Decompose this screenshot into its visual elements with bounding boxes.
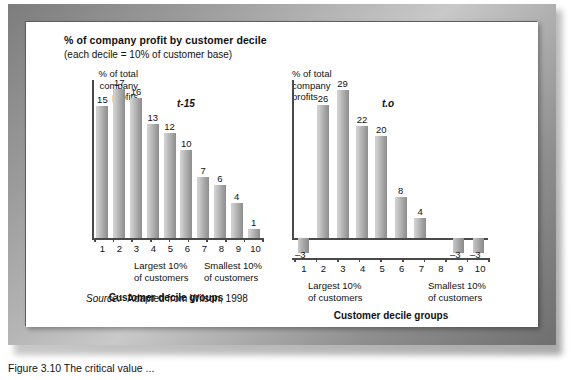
x-axis-tick (131, 238, 133, 242)
bar[interactable] (375, 136, 387, 238)
plot-area-left: 1517161312107641 (92, 80, 262, 238)
x-axis-tick-label: 3 (333, 263, 353, 274)
x-axis-tick (467, 258, 469, 262)
note-largest-right-line-1: Largest 10% (308, 280, 362, 292)
bar[interactable] (214, 185, 226, 238)
bar-value-label: 6 (217, 173, 222, 184)
bar-value-label: 10 (181, 138, 192, 149)
bar-group[interactable]: 22 (352, 80, 371, 238)
bar-group[interactable]: 8 (391, 80, 410, 238)
bar[interactable] (113, 89, 125, 238)
bar-value-label: 8 (398, 185, 403, 196)
x-axis-tick-label: 6 (392, 263, 412, 274)
x-axis-tick-label: 5 (372, 263, 392, 274)
bar[interactable] (147, 124, 159, 238)
x-axis-tick (262, 238, 264, 242)
bar-value-label: 29 (337, 78, 348, 89)
x-axis-tick-label: 7 (196, 243, 213, 254)
note-largest-right: Largest 10% of customers (308, 280, 362, 303)
bar-value-label: 16 (131, 86, 142, 97)
x-axis-tick (359, 258, 361, 262)
note-smallest-right-line-2: of customers (428, 292, 486, 304)
bar-group[interactable]: 16 (128, 80, 145, 238)
x-axis-tick (94, 238, 96, 242)
note-smallest-left-line-1: Smallest 10% (204, 260, 262, 272)
bar-series-right: 2629222084 (294, 80, 488, 238)
x-axis-tick-label: 10 (247, 243, 264, 254)
bar[interactable] (180, 150, 192, 238)
bar-group[interactable] (294, 80, 313, 238)
x-axis-tick-label: 10 (470, 263, 490, 274)
x-axis-tick-label: 7 (412, 263, 432, 274)
negative-bar-region-right: –3–3–3 (292, 238, 488, 258)
bar-group[interactable]: 1 (245, 80, 262, 238)
source-label: Source: (86, 293, 120, 304)
bar-group-negative[interactable]: –3 (453, 238, 464, 253)
x-axis-tick-label: 9 (230, 243, 247, 254)
bar-group-negative[interactable]: –3 (298, 238, 309, 253)
bar-group[interactable]: 6 (212, 80, 229, 238)
bar-group[interactable]: 4 (228, 80, 245, 238)
x-axis-tick (402, 258, 404, 262)
bar[interactable] (130, 98, 142, 238)
bar-group[interactable]: 12 (161, 80, 178, 238)
x-axis-title-right: Customer decile groups (292, 310, 490, 321)
note-largest-left-line-2: of customers (134, 272, 188, 284)
page-subtitle: (each decile = 10% of customer base) (64, 48, 364, 61)
note-smallest-right: Smallest 10% of customers (428, 280, 486, 303)
x-axis-tick (294, 258, 296, 262)
x-axis-tick (445, 258, 447, 262)
bar-value-label: 13 (147, 112, 158, 123)
bar-group[interactable] (430, 80, 449, 238)
bar-value-label: 7 (201, 165, 206, 176)
bar-group[interactable]: 7 (195, 80, 212, 238)
bar-group[interactable]: 10 (178, 80, 195, 238)
x-axis-ticks-right (294, 258, 490, 262)
bar-group[interactable]: 17 (111, 80, 128, 238)
bar[interactable] (164, 133, 176, 238)
bar-group[interactable]: 15 (94, 80, 111, 238)
bar[interactable] (317, 105, 329, 238)
x-axis-tick-label: 9 (451, 263, 471, 274)
bar-value-label: 15 (97, 94, 108, 105)
bar[interactable] (356, 126, 368, 238)
x-axis-tick-label: 2 (314, 263, 334, 274)
bar[interactable] (231, 203, 243, 238)
bar-group[interactable]: 20 (372, 80, 391, 238)
bar-group[interactable]: 26 (313, 80, 332, 238)
bar[interactable] (337, 90, 349, 238)
bar-value-label: 12 (164, 121, 175, 132)
source-note: Source: Adapted from Wilson, 1998 (86, 293, 248, 304)
x-axis-tick (169, 238, 171, 242)
x-axis-tick (113, 238, 115, 242)
x-axis-tick-labels-right: 12345678910 (294, 263, 490, 274)
bar-group[interactable]: 13 (144, 80, 161, 238)
bar-group[interactable]: 29 (333, 80, 352, 238)
bar[interactable] (248, 229, 260, 238)
x-axis-tick (488, 258, 490, 262)
x-axis-tick (225, 238, 227, 242)
bar-group-negative[interactable]: –3 (473, 238, 484, 253)
bar-series-left: 1517161312107641 (94, 80, 262, 238)
note-largest-left-line-1: Largest 10% (134, 260, 188, 272)
bar-group[interactable]: 4 (410, 80, 429, 238)
note-smallest-left-line-2: of customers (204, 272, 262, 284)
note-largest-left: Largest 10% of customers (134, 260, 188, 283)
x-axis-tick (206, 238, 208, 242)
x-axis-tick (244, 238, 246, 242)
note-largest-right-line-2: of customers (308, 292, 362, 304)
bar-group[interactable] (449, 80, 468, 238)
chart-panel-left: % of total company profits t-15 15171613… (52, 68, 277, 318)
plot-area-right: 2629222084 –3–3–3 (292, 80, 488, 238)
x-axis-tick-label: 8 (213, 243, 230, 254)
x-axis-tick-label: 2 (111, 243, 128, 254)
x-axis-tick-label: 1 (94, 243, 111, 254)
bar[interactable] (395, 197, 407, 238)
bar[interactable] (197, 177, 209, 238)
bar[interactable] (96, 106, 108, 238)
bar-value-label: 20 (376, 124, 387, 135)
x-axis-tick-label: 1 (294, 263, 314, 274)
bar[interactable] (414, 218, 426, 238)
bar-group[interactable] (469, 80, 488, 238)
bar-value-label: 17 (114, 77, 125, 88)
